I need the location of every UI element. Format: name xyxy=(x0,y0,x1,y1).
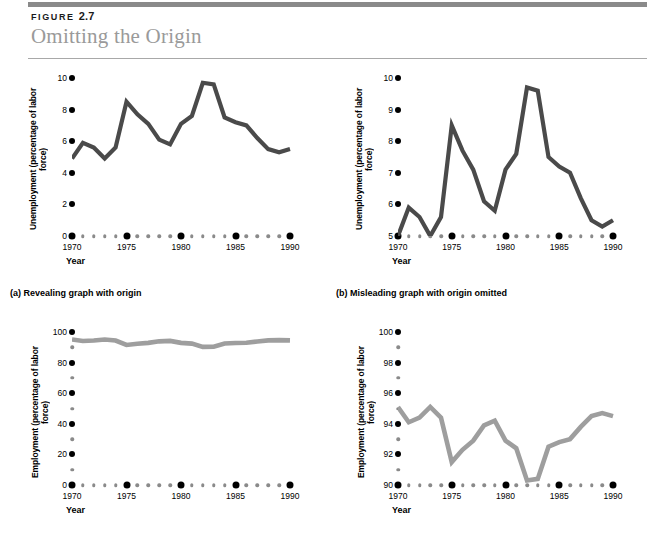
data-series-d xyxy=(398,407,613,480)
series-line-d xyxy=(0,0,647,533)
chart-panel-d: Employment (percentage of labor force)90… xyxy=(0,0,647,533)
